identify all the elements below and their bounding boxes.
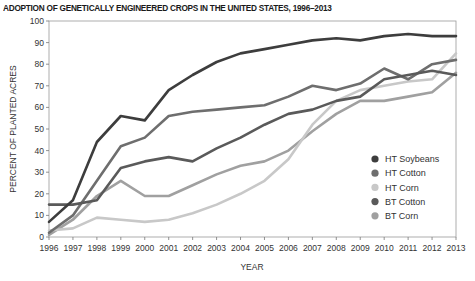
x-tick-label: 1999 <box>111 243 130 253</box>
legend: HT SoybeansHT CottonHT CornBT CottonBT C… <box>371 154 439 221</box>
legend-swatch-bt-cotton <box>371 198 378 205</box>
x-tick-label: 2005 <box>255 243 274 253</box>
x-tick-label: 1996 <box>40 243 59 253</box>
y-axis-label: PERCENT OF PLANTED ACRES <box>8 65 18 193</box>
y-tick-label: 0 <box>39 232 44 242</box>
series-line-ht-soybeans <box>49 34 456 222</box>
x-tick-label: 2000 <box>135 243 154 253</box>
x-tick-label: 1998 <box>87 243 106 253</box>
legend-label: BT Corn <box>385 211 418 221</box>
legend-swatch-bt-corn <box>371 212 378 219</box>
x-tick-label: 2006 <box>279 243 298 253</box>
legend-label: HT Corn <box>385 183 419 193</box>
x-tick-label: 2003 <box>207 243 226 253</box>
y-tick-label: 20 <box>35 189 45 199</box>
x-tick-label: 2010 <box>375 243 394 253</box>
y-tick-label: 60 <box>35 102 45 112</box>
x-tick-label: 2008 <box>327 243 346 253</box>
legend-label: HT Cotton <box>385 168 426 178</box>
y-tick-label: 50 <box>35 124 45 134</box>
legend-label: HT Soybeans <box>385 154 440 164</box>
x-tick-label: 2004 <box>231 243 250 253</box>
x-tick-label: 2012 <box>423 243 442 253</box>
y-tick-label: 90 <box>35 38 45 48</box>
x-tick-label: 2011 <box>399 243 418 253</box>
x-axis-label: YEAR <box>240 262 263 272</box>
legend-swatch-ht-corn <box>371 184 378 191</box>
legend-swatch-ht-cotton <box>371 170 378 177</box>
x-tick-label: 2007 <box>303 243 322 253</box>
x-tick-label: 2009 <box>351 243 370 253</box>
y-tick-label: 40 <box>35 146 45 156</box>
legend-label: BT Cotton <box>385 197 425 207</box>
x-tick-label: 2001 <box>159 243 178 253</box>
y-tick-label: 80 <box>35 59 45 69</box>
y-tick-label: 30 <box>35 167 45 177</box>
y-tick-label: 100 <box>30 16 44 26</box>
legend-swatch-ht-soybeans <box>371 155 378 162</box>
line-chart: 0102030405060708090100199619971998199920… <box>0 0 475 281</box>
y-tick-label: 10 <box>35 210 45 220</box>
y-tick-label: 70 <box>35 81 45 91</box>
x-tick-label: 1997 <box>63 243 82 253</box>
x-tick-label: 2002 <box>183 243 202 253</box>
x-tick-label: 2013 <box>447 243 466 253</box>
